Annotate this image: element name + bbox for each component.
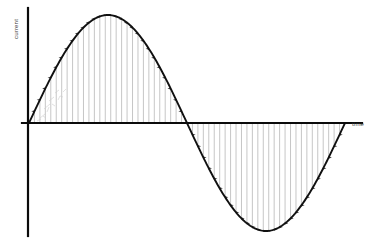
plot-canvas bbox=[0, 0, 377, 240]
sine-wave-figure: current time bbox=[0, 0, 377, 240]
y-axis-label: current bbox=[13, 9, 19, 49]
x-axis-label: time bbox=[352, 121, 364, 127]
